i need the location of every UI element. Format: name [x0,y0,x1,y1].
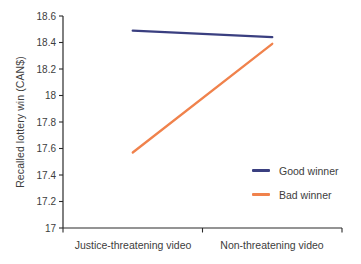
y-tick-label: 17.2 [37,196,57,207]
y-tick-label: 18.2 [37,64,57,75]
y-tick-label: 17.4 [37,170,57,181]
y-tick-label: 17 [45,223,57,234]
good-winner-line-swatch-icon [252,169,270,172]
y-tick-label: 18 [45,90,57,101]
y-tick-label: 17.8 [37,117,57,128]
y-tick-label: 17.6 [37,143,57,154]
y-tick-label: 18.6 [37,11,57,22]
legend-label-good-winner: Good winner [279,165,339,177]
x-category-label-justice-threatening: Justice-threatening video [75,239,192,251]
legend-item-bad-winner: Bad winner [252,187,339,202]
bad-winner-line-swatch-icon [252,193,270,196]
legend-label-bad-winner: Bad winner [279,189,332,201]
y-tick-label: 18.4 [37,37,57,48]
series-line-bad-winner [133,44,273,153]
legend-item-good-winner: Good winner [252,163,339,178]
chart-legend: Good winner Bad winner [252,163,339,202]
interaction-line-chart-figure: 1717.217.417.617.81818.218.418.6 Recalle… [0,0,361,264]
y-axis-title: Recalled lottery win (CAN$) [14,56,26,188]
chart-plot-area: 1717.217.417.617.81818.218.418.6 [0,0,361,264]
x-category-label-non-threatening: Non-threatening video [220,239,323,251]
series-line-good-winner [133,31,273,38]
